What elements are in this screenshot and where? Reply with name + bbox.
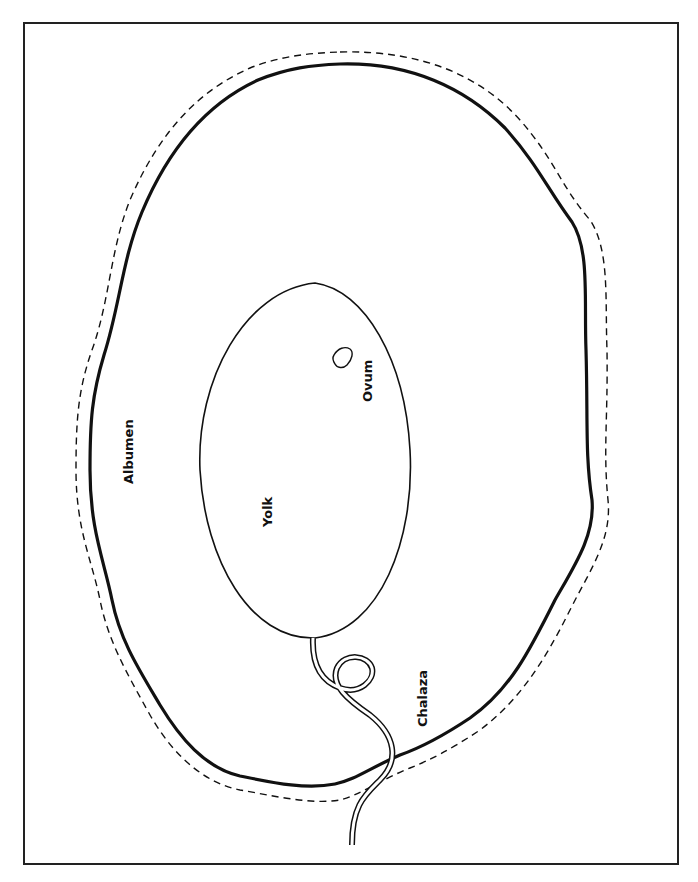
label-albumen: Albumen: [121, 419, 136, 484]
label-chalaza: Chalaza: [415, 670, 430, 727]
ovum-shape: [333, 348, 352, 368]
shell-outline: [90, 64, 592, 786]
label-ovum: Ovum: [360, 360, 375, 402]
egg-diagram: Albumen Yolk Ovum Chalaza: [0, 0, 698, 882]
label-yolk: Yolk: [260, 496, 275, 528]
chalaza-cord: [313, 638, 392, 845]
yolk-outline: [200, 283, 411, 638]
